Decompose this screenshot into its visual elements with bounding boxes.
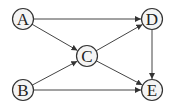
- node-label: E: [147, 81, 157, 100]
- node-d: D: [142, 9, 163, 30]
- node-label: B: [17, 81, 28, 100]
- node-a: A: [13, 9, 34, 30]
- edge-c-d: [96, 24, 142, 50]
- node-label: C: [81, 47, 92, 66]
- edge-a-c: [32, 24, 77, 50]
- nodes: ABCDE: [13, 9, 163, 101]
- node-c: C: [77, 46, 98, 67]
- node-e: E: [142, 80, 163, 101]
- node-b: B: [13, 80, 34, 101]
- edge-c-e: [96, 61, 142, 85]
- node-label: D: [146, 10, 158, 29]
- edge-b-c: [32, 61, 77, 85]
- node-label: A: [17, 10, 30, 29]
- directed-graph: ABCDE: [0, 0, 174, 110]
